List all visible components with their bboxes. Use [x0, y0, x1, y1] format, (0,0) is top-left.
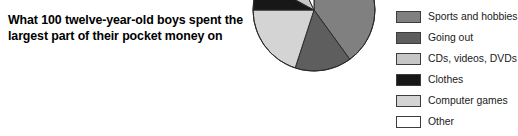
legend-label-going-out: Going out [428, 32, 473, 44]
chart-title: What 100 twelve-year-old boys spent the … [8, 12, 240, 44]
legend-label-clothes: Clothes [428, 74, 463, 86]
legend-swatch-cds-videos-dvds [396, 53, 421, 65]
legend-item-cds-videos-dvds[interactable]: CDs, videos, DVDs [396, 48, 518, 69]
legend: Sports and hobbies Going out CDs, videos… [396, 6, 518, 132]
legend-label-computer-games: Computer games [428, 95, 508, 107]
legend-swatch-sports-and-hobbies [396, 11, 421, 23]
legend-swatch-computer-games [396, 95, 421, 107]
legend-item-clothes[interactable]: Clothes [396, 69, 518, 90]
chart-title-line-1: What 100 twelve-year-old boys spent the [8, 12, 240, 28]
legend-swatch-going-out [396, 32, 421, 44]
legend-label-sports-and-hobbies: Sports and hobbies [428, 11, 518, 23]
chart-title-line-2: largest part of their pocket money on [8, 28, 240, 44]
legend-item-other[interactable]: Other [396, 111, 518, 132]
legend-item-computer-games[interactable]: Computer games [396, 90, 518, 111]
legend-item-sports-and-hobbies[interactable]: Sports and hobbies [396, 6, 518, 27]
pie-chart [252, 0, 376, 72]
pie-chart-svg [252, 0, 376, 72]
legend-item-going-out[interactable]: Going out [396, 27, 518, 48]
legend-label-other: Other [428, 116, 454, 128]
legend-swatch-other [396, 116, 421, 128]
pie-slice-group [253, 0, 375, 71]
legend-label-cds-videos-dvds: CDs, videos, DVDs [428, 53, 517, 65]
pie-chart-screenshot: What 100 twelve-year-old boys spent the … [0, 0, 518, 136]
legend-swatch-clothes [396, 74, 421, 86]
